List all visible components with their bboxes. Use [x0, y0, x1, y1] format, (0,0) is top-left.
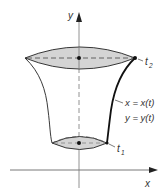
top-cross-section	[25, 47, 143, 69]
y-axis	[76, 12, 82, 188]
top-center-point	[77, 56, 81, 60]
x-axis-arrow-icon	[149, 167, 158, 173]
x-axis	[10, 167, 158, 173]
y-axis-label: y	[67, 10, 74, 21]
x-equation-label: x = x(t)	[124, 97, 154, 108]
bottom-endpoint	[105, 141, 108, 144]
top-endpoint	[133, 56, 137, 60]
y-axis-arrow-icon	[76, 12, 82, 22]
equation-leader-line	[115, 100, 123, 103]
bottom-cross-section	[52, 137, 115, 150]
svg-text:2: 2	[148, 62, 153, 69]
left-profile-curve	[25, 58, 52, 143]
t2-label: t 2	[145, 56, 153, 69]
surface-of-revolution-diagram: y x t 2 t 1 x = x(t) y = y(t)	[0, 0, 168, 196]
t1-label: t 1	[117, 143, 125, 156]
bottom-center-point	[77, 141, 81, 145]
y-equation-label: y = y(t)	[124, 112, 154, 123]
x-axis-label: x	[144, 178, 151, 189]
svg-text:1: 1	[121, 149, 125, 156]
